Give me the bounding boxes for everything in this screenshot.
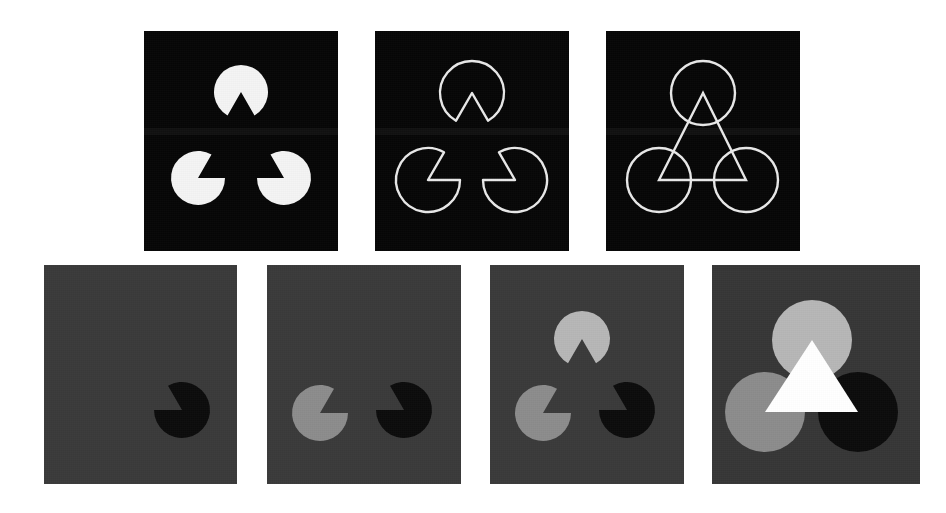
stimulus-panel-3: [606, 31, 800, 251]
top-inducer: [214, 65, 268, 115]
bottom-right-inducer: [257, 151, 311, 205]
stimulus-panel-7: [712, 265, 920, 484]
bottom-right-inducer: [376, 382, 432, 438]
bottom-left-inducer: [396, 148, 460, 212]
stimulus-panel-2: [375, 31, 569, 251]
bottom-left-inducer: [171, 151, 225, 205]
stimulus-panel-5: [267, 265, 461, 484]
bottom-right-inducer: [483, 148, 547, 212]
kanizsa-figure-canvas: [0, 0, 946, 513]
bottom-right-inducer: [154, 382, 210, 438]
top-inducer: [554, 311, 610, 363]
bottom-left-inducer: [515, 385, 571, 441]
bottom-right-inducer: [599, 382, 655, 438]
stimulus-panel-1: [144, 31, 338, 251]
stimulus-panel-4: [44, 265, 237, 484]
stimulus-panel-6: [490, 265, 684, 484]
top-inducer: [440, 61, 504, 121]
bottom-left-inducer: [292, 385, 348, 441]
